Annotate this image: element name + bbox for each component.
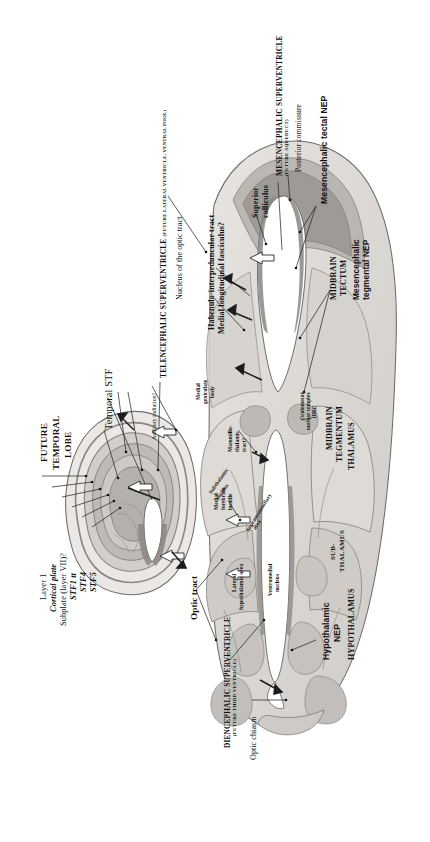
telencephalic-superventricle-text: TELENCEPHALIC SUPERVENTRICLE xyxy=(159,239,168,378)
label-layer-1: Layer 1 xyxy=(40,573,49,600)
label-hypothalamic-nep-line2: NEP xyxy=(333,624,342,642)
label-oculomotor-line3: (III)? xyxy=(312,405,317,418)
label-subthalamus-line2: THALAMUS xyxy=(339,530,346,572)
label-medial-geniculate-line1: Medial xyxy=(196,383,202,400)
label-mesencephalic-tegmental-nep-line2: tegmental NEP xyxy=(362,240,371,300)
label-superior-colliculus-line2: colliculus xyxy=(262,185,270,218)
label-cortical-plate: Cortical plate xyxy=(50,564,59,612)
label-mesencephalic-tegmental-nep-line1: Mesencephalic xyxy=(352,239,361,300)
label-lateral-hypothalamic-line1: Lateral xyxy=(232,574,238,592)
label-hypothalamic-nep-line1: Hypothalamic xyxy=(322,602,331,660)
label-posterior-commissure: Posterior commissure xyxy=(295,104,303,172)
temporal-stf-text: Temporal STF xyxy=(103,369,114,430)
label-midbrain-tectum-line1: MIDBRAIN xyxy=(330,256,338,300)
label-future-temporal-lobe-line1: FUTURE xyxy=(40,423,49,462)
label-ventromedial-line1: Ventromedial xyxy=(268,564,274,596)
label-medial-geniculate-line3: body xyxy=(210,386,216,398)
label-optic-tract: Optic tract xyxy=(190,576,199,620)
label-midbrain-tectum-line2: TECTUM xyxy=(340,260,348,296)
label-nucleus-optic-tract: Nucleus of the optic tract xyxy=(176,217,184,300)
figure-plate: TELENCEPHALIC SUPERVENTRICLE (FUTURE LAT… xyxy=(0,0,430,842)
label-mammillo-thalamic-line2: thalamic xyxy=(235,431,241,452)
label-superior-colliculus-line1: Superior xyxy=(252,187,260,218)
label-mammillo-thalamic-line1: Mammillo- xyxy=(228,425,234,452)
label-auditory-radiation: Auditory radiation? xyxy=(152,393,158,440)
label-temporal-stf: Temporal STF xyxy=(104,369,115,430)
label-mesencephalic-tectal-nep: Mesencephalic tectal NEP xyxy=(320,96,329,204)
label-stf5: STF5 xyxy=(90,572,99,592)
label-medial-geniculate-line2: geniculate xyxy=(203,380,209,404)
label-midbrain-tegmentum-line2: TEGMENTUM xyxy=(336,406,344,462)
label-future-temporal-lobe-line3: LOBE xyxy=(64,432,73,458)
label-habenulo-interpeduncular-tract: Habenulo-interpeduncular tract xyxy=(208,215,216,330)
label-medial-forebrain-line3: bundle xyxy=(228,494,234,510)
label-lateral-hypothalamic-line2: hypothalamic area xyxy=(239,564,245,610)
label-optic-chiasm: Optic chiasm xyxy=(250,716,258,760)
label-thalamus: THALAMUS xyxy=(348,422,356,470)
label-mesencephalic-superventricle-sub: (FUTURE AQUEDUCT) xyxy=(284,119,289,176)
telencephalic-superventricle-sub: (FUTURE LATERAL VENTRICLE, VENTRAL POOL) xyxy=(162,110,167,237)
label-hypothalamus: HYPOTHALAMUS xyxy=(348,588,356,660)
label-midbrain-tegmentum-line1: MIDBRAIN xyxy=(326,406,334,450)
label-diencephalic-superventricle: DIENCEPHALIC SUPERVENTRICLE xyxy=(224,617,231,748)
label-subthalamus-line1: SUB- xyxy=(330,543,337,560)
label-medial-longitudinal-fasciculus: Medial longitudinal fasciculus? xyxy=(218,222,226,334)
label-telencephalic-superventricle: TELENCEPHALIC SUPERVENTRICLE (FUTURE LAT… xyxy=(160,110,168,378)
label-diencephalic-superventricle-sub: (FUTURE THIRD VENTRICLE) xyxy=(232,659,237,736)
label-stf1: STF1 tt xyxy=(70,573,79,600)
mesencephalic-superventricle-text: MESENCEPHALIC SUPERVENTRICLE xyxy=(275,35,284,176)
label-subplate: Subplate (layer VII)? xyxy=(60,553,69,626)
label-mesencephalic-superventricle: MESENCEPHALIC SUPERVENTRICLE xyxy=(276,35,284,176)
label-mammillo-thalamic-line3: tract? xyxy=(242,438,248,452)
label-future-temporal-lobe-line2: TEMPORAL xyxy=(52,415,61,470)
label-ventromedial-line2: nucleus xyxy=(275,574,281,592)
label-stf4: STF4 xyxy=(80,572,89,592)
